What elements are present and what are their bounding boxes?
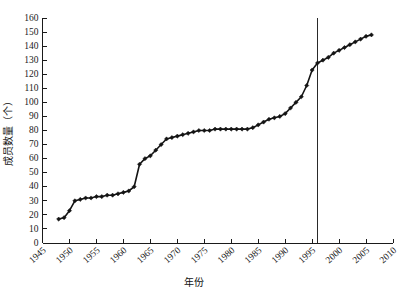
- y-axis-title: 成员数量（个）: [2, 96, 14, 166]
- data-point-marker: [369, 33, 373, 37]
- x-tick-label: 1995: [297, 245, 318, 265]
- y-tick-label: 50: [29, 167, 39, 177]
- data-point-marker: [84, 196, 88, 200]
- x-tick-label: 1945: [27, 245, 48, 265]
- data-point-marker: [121, 190, 125, 194]
- y-tick-label: 110: [25, 83, 39, 93]
- data-point-marker: [235, 127, 239, 131]
- data-point-marker: [94, 194, 98, 198]
- data-point-marker: [170, 135, 174, 139]
- data-point-marker: [245, 127, 249, 131]
- y-tick-label: 40: [29, 181, 39, 191]
- x-tick-label: 2010: [378, 245, 399, 265]
- x-tick-label: 1985: [243, 245, 264, 265]
- y-tick-label: 140: [24, 41, 39, 51]
- data-point-marker: [202, 128, 206, 132]
- line-chart-plot: 0102030405060708090100110120130140150160…: [0, 0, 407, 290]
- data-point-marker: [240, 127, 244, 131]
- data-point-marker: [57, 217, 61, 221]
- data-point-marker: [186, 131, 190, 135]
- y-tick-label: 90: [29, 111, 39, 121]
- data-point-marker: [78, 197, 82, 201]
- data-point-marker: [224, 127, 228, 131]
- y-tick-label: 130: [24, 55, 39, 65]
- y-tick-label: 120: [24, 69, 39, 79]
- data-point-marker: [213, 127, 217, 131]
- x-tick-label: 1970: [162, 245, 183, 265]
- x-tick-label: 1960: [108, 245, 129, 265]
- data-point-marker: [89, 196, 93, 200]
- data-point-marker: [181, 133, 185, 137]
- data-point-marker: [191, 130, 195, 134]
- x-tick-label: 1955: [81, 245, 102, 265]
- y-tick-label: 150: [24, 27, 39, 37]
- y-tick-label: 0: [34, 238, 39, 248]
- x-axis-title: 年份: [184, 276, 204, 288]
- y-tick-label: 160: [24, 13, 39, 23]
- y-tick-label: 100: [24, 97, 39, 107]
- y-tick-label: 70: [29, 139, 39, 149]
- chart-container: 0102030405060708090100110120130140150160…: [0, 0, 407, 290]
- data-point-marker: [175, 134, 179, 138]
- y-tick-label: 30: [29, 196, 39, 206]
- data-point-marker: [272, 116, 276, 120]
- x-tick-label: 1965: [135, 245, 156, 265]
- y-tick-label: 80: [29, 125, 39, 135]
- y-tick-label: 60: [29, 153, 39, 163]
- data-point-marker: [229, 127, 233, 131]
- x-tick-label: 2000: [324, 245, 345, 265]
- data-point-marker: [100, 194, 104, 198]
- data-point-marker: [218, 127, 222, 131]
- data-point-marker: [208, 128, 212, 132]
- x-tick-label: 2005: [351, 245, 372, 265]
- y-tick-label: 10: [29, 224, 39, 234]
- data-point-marker: [105, 193, 109, 197]
- y-tick-label: 20: [29, 210, 39, 220]
- x-tick-label: 1975: [189, 245, 210, 265]
- data-point-marker: [111, 193, 115, 197]
- x-tick-label: 1990: [270, 245, 291, 265]
- data-point-marker: [116, 192, 120, 196]
- x-tick-label: 1950: [54, 245, 75, 265]
- data-point-marker: [197, 128, 201, 132]
- x-tick-label: 1980: [216, 245, 237, 265]
